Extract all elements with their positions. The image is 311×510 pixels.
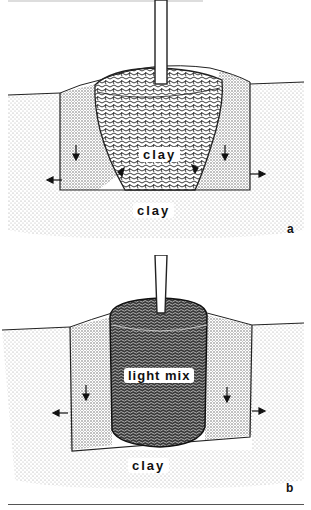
figure-panel-a: clay clay a	[0, 0, 311, 250]
panel-letter: b	[286, 481, 293, 495]
outer-soil-label: clay	[128, 458, 169, 473]
panel-letter: a	[287, 222, 294, 236]
outer-soil-label: clay	[133, 203, 174, 218]
inner-soil-label: clay	[139, 147, 180, 162]
inner-soil-label: light mix	[124, 368, 194, 383]
figure-panel-b: light mix clay b	[0, 255, 311, 500]
bottom-rule-divider	[8, 504, 304, 505]
